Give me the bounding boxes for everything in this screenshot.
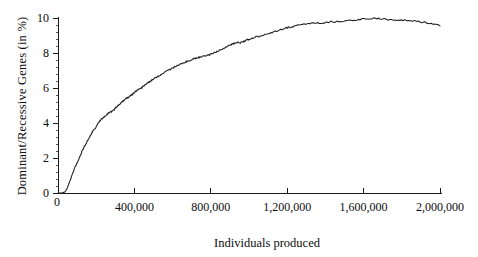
y-tick-label: 2 [43,151,49,165]
y-tick-label: 6 [43,81,49,95]
y-axis-tick-labels: 0246810 [37,11,49,200]
x-tick-label: 2,000,000 [416,200,464,214]
x-axis-title: Individuals produced [214,236,321,250]
y-axis-title: Dominant/Recessive Genes (in %) [15,17,29,196]
x-tick-label: 400,000 [115,200,154,214]
x-tick-label: 1,600,000 [340,200,388,214]
x-tick-label: 0 [54,195,60,209]
x-axis-tick-labels: 0400,000800,0001,200,0001,600,0002,000,0… [54,195,464,214]
y-tick-label: 8 [43,46,49,60]
x-tick-label: 1,200,000 [263,200,311,214]
line-chart: 0400,000800,0001,200,0001,600,0002,000,0… [0,0,478,257]
data-series-line [58,18,440,193]
y-tick-label: 10 [37,11,49,25]
x-tick-label: 800,000 [191,200,230,214]
y-tick-label: 4 [43,116,49,130]
y-tick-label: 0 [43,186,49,200]
chart-figure: 0400,000800,0001,200,0001,600,0002,000,0… [0,0,478,257]
x-axis-major-ticks [134,188,440,193]
